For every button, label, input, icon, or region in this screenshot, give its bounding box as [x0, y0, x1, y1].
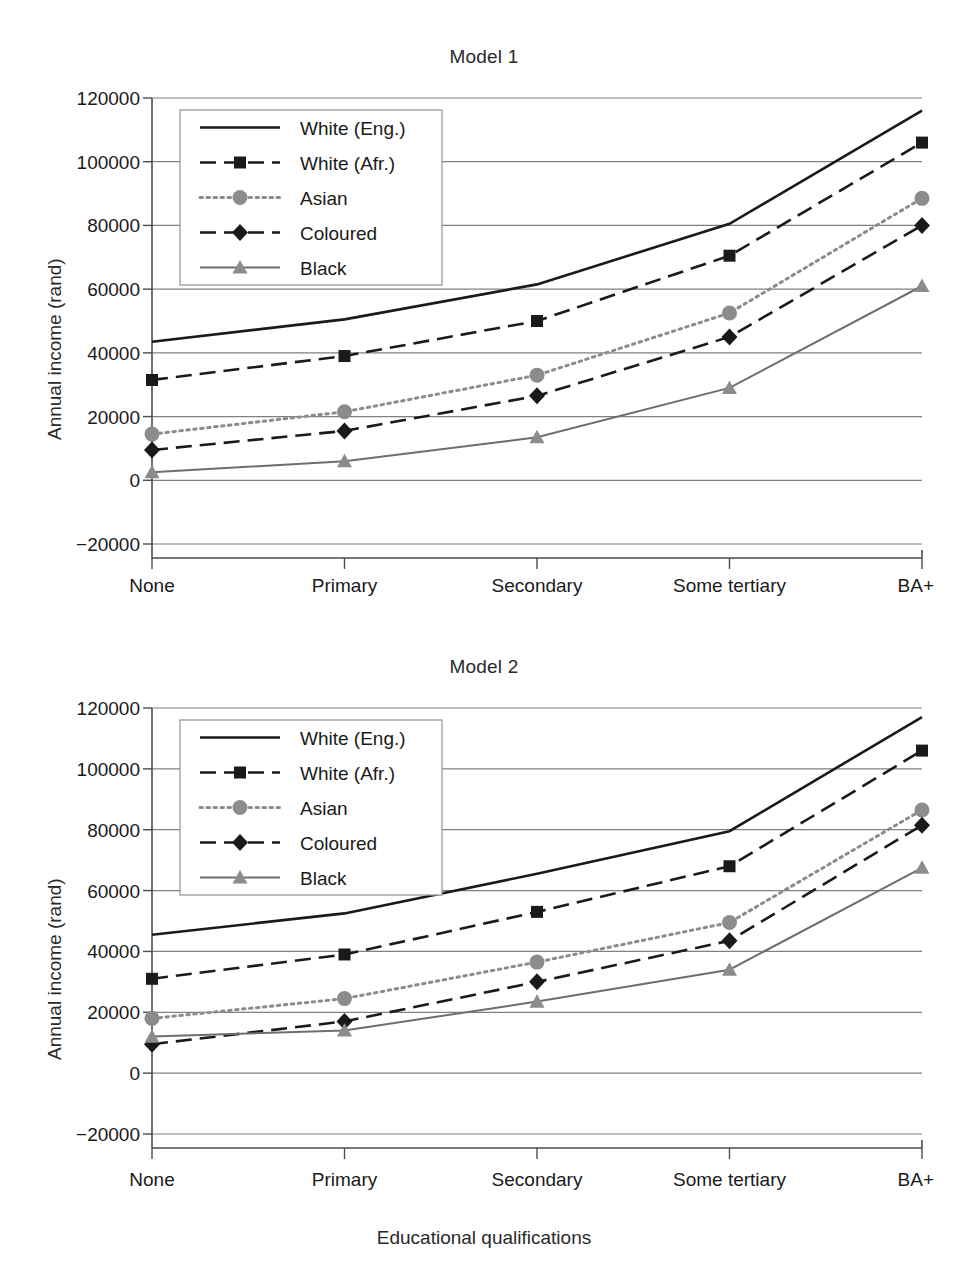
y-axis-tick-label: 60000: [87, 279, 140, 300]
y-axis-tick-label: 40000: [87, 941, 140, 962]
y-axis-tick-label: 60000: [87, 881, 140, 902]
marker-asian: [337, 404, 352, 419]
marker-coloured: [722, 932, 738, 949]
marker-black: [915, 278, 930, 292]
legend-entry-label: Coloured: [300, 833, 377, 854]
marker-white-afr: [146, 973, 158, 985]
plot-area-model-1: −20000020000400006000080000100000120000N…: [0, 0, 968, 620]
x-axis-category-label: Some tertiary: [673, 575, 786, 596]
legend-entry-label: Asian: [300, 188, 348, 209]
marker-white-afr: [531, 906, 543, 918]
chart-panel-model-2: Model 2 Annual income (rand) −2000002000…: [0, 620, 968, 1274]
marker-coloured: [529, 973, 545, 990]
legend-entry-label: Asian: [300, 798, 348, 819]
marker-black: [915, 860, 930, 874]
legend-entry-label: White (Afr.): [300, 153, 395, 174]
marker-white-afr: [531, 315, 543, 327]
legend-entry-label: Black: [300, 258, 347, 279]
marker-coloured: [914, 217, 930, 234]
x-axis-category-label: None: [129, 575, 174, 596]
marker-asian: [530, 955, 545, 970]
chart-panel-model-1: Model 1 Annual income (rand) −2000002000…: [0, 0, 968, 620]
marker-asian: [722, 306, 737, 321]
x-axis-category-label: Secondary: [492, 1169, 583, 1190]
legend-entry-label: Coloured: [300, 223, 377, 244]
legend-marker-square: [234, 157, 246, 169]
legend-marker-circle: [233, 190, 248, 205]
y-axis-tick-label: 20000: [87, 1002, 140, 1023]
marker-white-afr: [724, 860, 736, 872]
x-axis-category-label: None: [129, 1169, 174, 1190]
legend-entry-label: White (Afr.): [300, 763, 395, 784]
marker-white-afr: [339, 948, 351, 960]
marker-asian: [145, 427, 160, 442]
marker-coloured: [144, 442, 160, 459]
y-axis-tick-label: 100000: [77, 152, 140, 173]
y-axis-tick-label: 80000: [87, 215, 140, 236]
marker-coloured: [337, 422, 353, 439]
legend-entry-label: White (Eng.): [300, 118, 406, 139]
legend-marker-circle: [233, 800, 248, 815]
marker-white-afr: [339, 350, 351, 362]
y-axis-tick-label: 100000: [77, 759, 140, 780]
x-axis-category-label: Some tertiary: [673, 1169, 786, 1190]
x-axis-label: Educational qualifications: [0, 1227, 968, 1249]
marker-coloured: [529, 387, 545, 404]
x-axis-category-label: BA+: [898, 1169, 934, 1190]
legend-entry-label: White (Eng.): [300, 728, 406, 749]
marker-coloured: [914, 817, 930, 834]
marker-asian: [145, 1011, 160, 1026]
marker-white-afr: [146, 374, 158, 386]
x-axis-category-label: Primary: [312, 1169, 378, 1190]
marker-white-afr: [916, 745, 928, 757]
marker-white-afr: [724, 250, 736, 262]
marker-coloured: [722, 328, 738, 345]
y-axis-tick-label: −20000: [76, 1124, 140, 1145]
x-axis-category-label: BA+: [898, 575, 934, 596]
plot-area-model-2: −20000020000400006000080000100000120000N…: [0, 620, 968, 1274]
legend-marker-square: [234, 767, 246, 779]
marker-black: [722, 962, 737, 976]
figure-two-line-charts: Model 1 Annual income (rand) −2000002000…: [0, 0, 968, 1274]
marker-asian: [915, 191, 930, 206]
y-axis-tick-label: 120000: [77, 698, 140, 719]
marker-asian: [722, 915, 737, 930]
marker-asian: [530, 368, 545, 383]
y-axis-tick-label: 0: [129, 470, 140, 491]
marker-white-afr: [916, 137, 928, 149]
marker-black: [722, 380, 737, 394]
y-axis-tick-label: 0: [129, 1063, 140, 1084]
y-axis-tick-label: 80000: [87, 820, 140, 841]
marker-asian: [915, 802, 930, 817]
marker-asian: [337, 991, 352, 1006]
y-axis-tick-label: 120000: [77, 88, 140, 109]
y-axis-tick-label: 40000: [87, 343, 140, 364]
legend-entry-label: Black: [300, 868, 347, 889]
x-axis-category-label: Secondary: [492, 575, 583, 596]
y-axis-tick-label: 20000: [87, 407, 140, 428]
y-axis-tick-label: −20000: [76, 534, 140, 555]
x-axis-category-label: Primary: [312, 575, 378, 596]
